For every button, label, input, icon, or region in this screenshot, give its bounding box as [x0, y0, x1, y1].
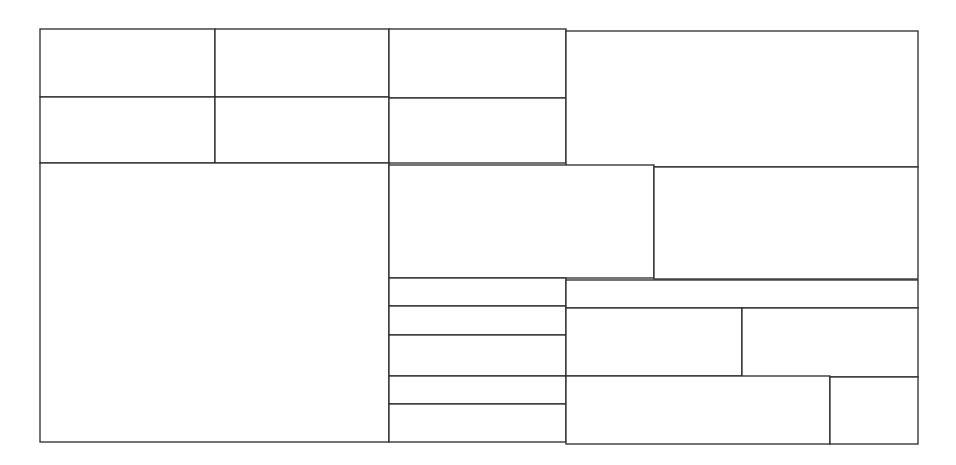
cell-r1-c2 — [215, 29, 389, 97]
cell-stack-3 — [389, 335, 566, 376]
cell-left-large — [40, 163, 389, 442]
cell-right-mid-a — [566, 308, 742, 376]
cell-stack-4 — [389, 376, 566, 404]
cell-right-bottom-b — [830, 377, 918, 444]
cell-r2-c3 — [389, 98, 566, 163]
cell-r2-c2 — [215, 97, 389, 163]
cell-mid-a — [389, 165, 654, 278]
cell-r1-c3 — [389, 29, 566, 98]
cell-stack-1 — [389, 278, 566, 306]
cell-mid-b — [654, 167, 918, 279]
partition-diagram — [0, 0, 956, 465]
cell-top-right — [566, 31, 918, 167]
cell-right-bottom-a — [566, 376, 830, 444]
cell-r1-c1 — [40, 29, 215, 97]
cell-stack-5 — [389, 404, 566, 442]
cell-stack-2 — [389, 306, 566, 335]
cell-right-strip — [566, 280, 918, 308]
cell-right-mid-b — [742, 308, 918, 377]
cell-r2-c1 — [40, 97, 215, 163]
